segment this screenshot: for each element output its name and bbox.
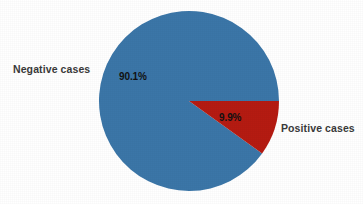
pie-category-label-positive-cases: Positive cases <box>281 122 355 134</box>
pie-slice-negative-percent-label: 90.1% <box>119 71 147 82</box>
pie-chart-canvas <box>0 0 363 204</box>
pie-category-label-negative-cases: Negative cases <box>13 63 90 75</box>
pie-slice-negative-cases[interactable] <box>99 11 279 191</box>
pie-slice-positive-percent-label: 9.9% <box>219 112 241 123</box>
pie-chart-figure: 90.1% 9.9% Negative cases Positive cases <box>0 0 363 204</box>
